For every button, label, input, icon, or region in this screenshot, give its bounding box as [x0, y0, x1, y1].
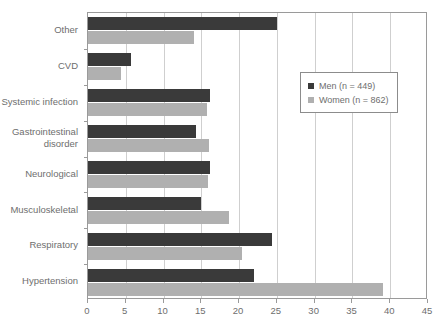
y-axis-tick [84, 157, 88, 158]
y-axis-label: Musculoskeletal [0, 204, 78, 216]
bar-group [88, 157, 426, 193]
y-axis-tick [84, 192, 88, 193]
chart-legend: Men (n = 449)Women (n = 862) [300, 72, 398, 113]
x-axis-tick [125, 299, 126, 303]
legend-swatch-icon [308, 97, 314, 103]
bar-men [88, 17, 277, 30]
x-axis-tick [163, 299, 164, 303]
x-axis-tick-label: 10 [157, 305, 168, 316]
x-axis-tick-label: 45 [422, 305, 433, 316]
bar-men [88, 89, 210, 102]
y-axis-label: Hypertension [0, 275, 78, 287]
bar-women [88, 247, 242, 260]
x-axis-tick-label: 20 [233, 305, 244, 316]
legend-swatch-icon [308, 83, 314, 89]
bar-men [88, 161, 210, 174]
legend-label: Women (n = 862) [319, 95, 389, 105]
bar-women [88, 211, 229, 224]
bar-group [88, 228, 426, 264]
legend-item: Men (n = 449) [308, 79, 391, 92]
x-axis-tick-label: 15 [195, 305, 206, 316]
bar-chart: OtherCVDSystemic infectionGastrointestin… [0, 0, 440, 328]
bar-women [88, 175, 208, 188]
x-axis-tick-label: 25 [271, 305, 282, 316]
y-axis-label: Gastrointestinal disorder [0, 126, 78, 149]
y-axis-label: CVD [0, 60, 78, 72]
y-axis-tick [84, 49, 88, 50]
x-axis-tick [87, 299, 88, 303]
x-axis-tick [314, 299, 315, 303]
x-axis-tick [389, 299, 390, 303]
legend-label: Men (n = 449) [319, 81, 375, 91]
y-axis-tick [84, 228, 88, 229]
plot-area [87, 12, 427, 299]
x-axis-tick-label: 35 [346, 305, 357, 316]
y-axis-label: Other [0, 24, 78, 36]
bar-men [88, 125, 196, 138]
x-axis-tick [351, 299, 352, 303]
bar-group [88, 13, 426, 49]
bar-women [88, 103, 207, 116]
bar-men [88, 269, 254, 282]
bar-women [88, 283, 383, 296]
bar-group [88, 264, 426, 300]
bar-men [88, 197, 201, 210]
y-axis-category-labels: OtherCVDSystemic infectionGastrointestin… [0, 12, 83, 299]
bar-women [88, 31, 194, 44]
y-axis-tick [84, 121, 88, 122]
x-axis-tick-label: 40 [384, 305, 395, 316]
x-axis: 051015202530354045 [87, 299, 427, 325]
x-axis-tick [238, 299, 239, 303]
x-axis-tick-label: 5 [122, 305, 127, 316]
y-axis-tick [84, 85, 88, 86]
bar-men [88, 53, 131, 66]
y-axis-label: Systemic infection [0, 96, 78, 108]
x-axis-tick [427, 299, 428, 303]
bar-women [88, 67, 121, 80]
x-axis-tick-label: 0 [84, 305, 89, 316]
x-axis-tick-label: 30 [308, 305, 319, 316]
bar-women [88, 139, 209, 152]
x-axis-tick [200, 299, 201, 303]
y-axis-label: Neurological [0, 168, 78, 180]
y-axis-tick [84, 264, 88, 265]
bar-men [88, 233, 272, 246]
bar-group [88, 121, 426, 157]
y-axis-label: Respiratory [0, 239, 78, 251]
x-axis-tick [276, 299, 277, 303]
legend-item: Women (n = 862) [308, 93, 391, 106]
bar-group [88, 192, 426, 228]
